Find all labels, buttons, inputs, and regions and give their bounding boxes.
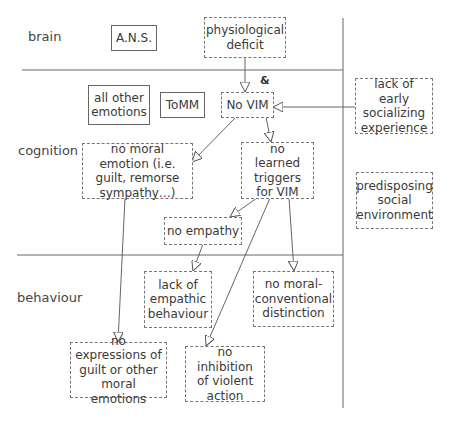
node-no-inhibition: no inhibition of violent action (185, 346, 265, 402)
node-ans: A.N.S. (111, 25, 157, 51)
node-all-other-emotions: all other emotions (88, 85, 150, 125)
diagram: brain cognition behaviour A.N.S. physiol… (0, 0, 450, 422)
node-no-moral-conventional: no moral-conventional distinction (253, 271, 334, 327)
node-tomm: ToMM (160, 92, 205, 118)
node-predisposing-social-environment: predisposing social environment (356, 172, 433, 229)
node-lack-early-socializing: lack of early socializing experience (355, 78, 433, 134)
node-no-empathy: no empathy (164, 217, 242, 245)
node-no-moral-emotion: no moral emotion (i.e. guilt, remorse sy… (82, 143, 193, 199)
node-physiological-deficit: physiological deficit (204, 17, 286, 58)
node-no-vim: No VIM (221, 92, 274, 118)
level-label-cognition: cognition (18, 143, 78, 158)
node-lack-empathic-behaviour: lack of empathic behaviour (144, 271, 212, 328)
level-label-behaviour: behaviour (17, 290, 82, 305)
level-label-brain: brain (28, 29, 61, 44)
node-no-expressions: no expressions of guilt or other moral e… (70, 342, 167, 398)
conjunction-symbol: & (260, 74, 270, 87)
node-no-learned-triggers: no learned triggers for VIM (241, 142, 314, 199)
